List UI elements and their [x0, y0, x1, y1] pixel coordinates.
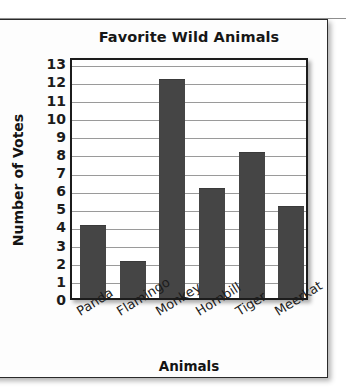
- y-tick-label: 2: [40, 257, 66, 271]
- bar: [199, 188, 225, 298]
- gridline: [72, 247, 306, 248]
- gridline: [72, 66, 306, 67]
- y-tick-label: 3: [40, 239, 66, 253]
- y-tick-label: 10: [40, 112, 66, 126]
- plot-inner: [72, 60, 306, 298]
- gridline: [72, 175, 306, 176]
- y-tick-label: 11: [40, 94, 66, 108]
- gridline: [72, 265, 306, 266]
- gridline: [72, 211, 306, 212]
- y-tick-label: 13: [40, 57, 66, 71]
- gridline: [72, 102, 306, 103]
- gridline: [72, 156, 306, 157]
- bar: [159, 79, 185, 298]
- bar: [239, 152, 265, 298]
- y-tick-label: 9: [40, 130, 66, 144]
- y-axis-title: Number of Votes: [10, 100, 26, 260]
- chart-title: Favorite Wild Animals: [70, 29, 308, 45]
- x-axis-title: Animals: [70, 358, 308, 374]
- y-axis-tick-labels: 131211109876543210: [38, 58, 66, 300]
- y-tick-label: 4: [40, 220, 66, 234]
- gridline: [72, 120, 306, 121]
- y-tick-label: 12: [40, 75, 66, 89]
- y-tick-label: 8: [40, 148, 66, 162]
- gridline: [72, 138, 306, 139]
- y-tick-label: 7: [40, 166, 66, 180]
- bar-chart: Favorite Wild Animals Number of Votes 13…: [0, 0, 346, 387]
- y-tick-label: 5: [40, 202, 66, 216]
- x-axis-tick-labels: PandaFlamingoMonkeyHornbillTigerMeerkat: [70, 300, 308, 358]
- gridline: [72, 229, 306, 230]
- gridline: [72, 193, 306, 194]
- y-tick-label: 6: [40, 184, 66, 198]
- plot-area: [70, 58, 308, 300]
- y-tick-label: 0: [40, 293, 66, 307]
- gridline: [72, 84, 306, 85]
- bar: [278, 206, 304, 298]
- y-tick-label: 1: [40, 275, 66, 289]
